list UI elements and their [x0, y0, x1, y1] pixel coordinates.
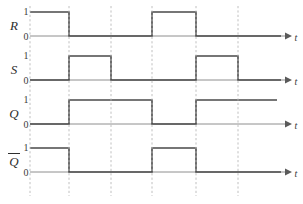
level-label-low-Q: 0	[24, 119, 29, 130]
grid-lines-group	[30, 6, 238, 196]
time-axis-label-Q: t	[295, 120, 298, 131]
time-axis-arrow-Qbar	[285, 169, 292, 176]
waveform-row-Q: Q 1 0 t	[9, 94, 297, 131]
level-label-high-S: 1	[24, 50, 29, 61]
waveform-row-Qbar: Q 1 0 t	[8, 142, 298, 179]
level-label-low-R: 0	[24, 31, 29, 42]
waveform-path-R	[30, 12, 281, 36]
timing-diagram-canvas: R 1 0 t S 1 0 t Q 1 0 t	[0, 0, 303, 204]
waveform-path-Qbar	[30, 148, 281, 172]
time-axis-arrow-Q	[285, 121, 292, 128]
signal-label-Qbar: Q	[9, 154, 19, 169]
level-label-high-Qbar: 1	[24, 142, 29, 153]
time-axis-label-R: t	[295, 32, 298, 43]
time-axis-label-S: t	[295, 76, 298, 87]
waveform-row-S: S 1 0 t	[11, 50, 298, 87]
time-axis-label-Qbar: t	[295, 168, 298, 179]
signal-label-R: R	[9, 18, 18, 33]
level-label-high-R: 1	[24, 6, 29, 17]
level-label-low-Qbar: 0	[24, 167, 29, 178]
timing-diagram-figure: R 1 0 t S 1 0 t Q 1 0 t	[0, 0, 303, 204]
time-axis-arrow-S	[285, 77, 292, 84]
time-axis-arrow-R	[285, 33, 292, 40]
waveform-row-R: R 1 0 t	[9, 6, 298, 43]
level-label-high-Q: 1	[24, 94, 29, 105]
waveform-path-S	[30, 56, 281, 80]
waveform-path-Q	[30, 100, 277, 124]
signal-label-Q: Q	[9, 106, 19, 121]
level-label-low-S: 0	[24, 75, 29, 86]
signal-label-S: S	[11, 62, 18, 77]
